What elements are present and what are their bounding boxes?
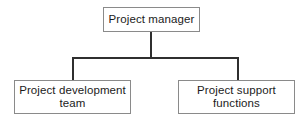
node-project-support-functions-label: Project support functions <box>197 84 276 111</box>
node-project-manager-label: Project manager <box>109 13 195 27</box>
node-project-development-team: Project development team <box>14 80 131 114</box>
node-project-development-team-label: Project development team <box>19 84 126 111</box>
node-project-support-functions: Project support functions <box>178 80 295 114</box>
connector-horizontal-bus <box>72 57 239 59</box>
connector-drop-to-project-development-team <box>72 57 74 81</box>
org-chart-diagram: Project manager Project development team… <box>0 0 307 124</box>
node-project-manager: Project manager <box>103 7 200 32</box>
connector-root-stem <box>150 32 152 58</box>
connector-drop-to-project-support-functions <box>237 57 239 81</box>
